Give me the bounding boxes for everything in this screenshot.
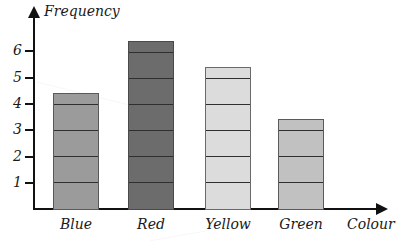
y-axis-title: Frequency xyxy=(44,3,120,19)
bar-red[interactable] xyxy=(128,41,174,210)
bar-segment-line xyxy=(278,182,324,183)
bar-yellow[interactable] xyxy=(205,67,251,210)
bar-segment-line xyxy=(278,130,324,131)
x-tick-label-green: Green xyxy=(255,216,347,232)
bar-segment-line xyxy=(128,130,174,131)
axis-arrow-right-icon xyxy=(376,203,388,215)
axis-arrow-up-icon xyxy=(28,6,40,18)
y-tick-mark xyxy=(25,182,34,184)
bar-segment-line xyxy=(53,156,99,157)
y-tick-mark xyxy=(25,129,34,131)
y-tick-mark xyxy=(25,77,34,79)
y-axis-line xyxy=(33,16,35,210)
y-tick-mark xyxy=(25,103,34,105)
bar-segment-line xyxy=(205,156,251,157)
bar-green[interactable] xyxy=(278,119,324,210)
bar-blue[interactable] xyxy=(53,93,99,210)
y-tick-label: 5 xyxy=(8,70,22,84)
bar-segment-line xyxy=(128,156,174,157)
y-tick-label: 4 xyxy=(8,96,22,110)
y-tick-label: 1 xyxy=(8,175,22,189)
y-tick-mark xyxy=(25,156,34,158)
y-tick-label: 2 xyxy=(8,149,22,163)
y-tick-label: 6 xyxy=(8,43,22,57)
y-tick-label: 3 xyxy=(8,122,22,136)
bar-segment-line xyxy=(53,104,99,105)
bar-segment-line xyxy=(53,130,99,131)
plot-area: Frequency Colour 6 5 4 3 2 1 Blue xyxy=(0,0,415,248)
bar-segment-line xyxy=(128,104,174,105)
x-axis-title: Colour xyxy=(347,216,395,232)
bar-chart-figure: Frequency Colour 6 5 4 3 2 1 Blue xyxy=(0,0,415,248)
bar-segment-line xyxy=(278,156,324,157)
bar-segment-line xyxy=(128,182,174,183)
bar-segment-line xyxy=(128,78,174,79)
y-tick-mark xyxy=(25,50,34,52)
bar-segment-line xyxy=(53,182,99,183)
bar-segment-line xyxy=(205,130,251,131)
bar-segment-line xyxy=(205,182,251,183)
bar-segment-line xyxy=(205,104,251,105)
bar-segment-line xyxy=(205,78,251,79)
bar-segment-line xyxy=(128,52,174,53)
